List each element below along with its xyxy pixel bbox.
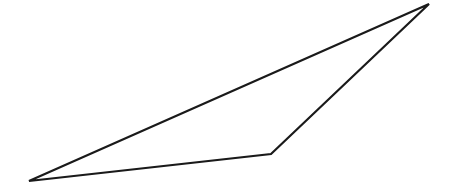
- diagram-canvas: [0, 0, 452, 194]
- triangle-outline: [29, 4, 429, 181]
- triangle-diagram: [0, 0, 452, 194]
